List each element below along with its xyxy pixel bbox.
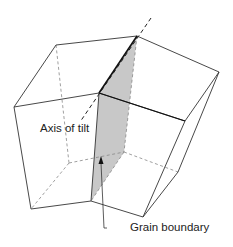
grain-boundary-plane: [91, 36, 137, 201]
diagram-canvas: [0, 0, 233, 247]
axis-of-tilt-label: Axis of tilt: [40, 123, 89, 135]
grain-boundary-label: Grain boundary: [130, 222, 209, 234]
tilt-boundary-diagram: Axis of tilt Grain boundary: [0, 0, 233, 247]
